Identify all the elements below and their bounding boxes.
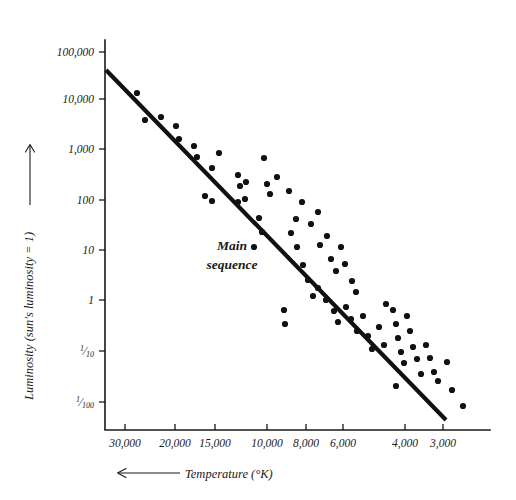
star-point — [299, 199, 305, 205]
star-point — [310, 293, 316, 299]
star-point — [261, 155, 267, 161]
star-point — [202, 193, 208, 199]
star-point — [342, 261, 348, 267]
star-point — [365, 333, 371, 339]
y-tick-label-1000: 1,000 — [68, 143, 94, 156]
y-axis-tick-labels: 100,00010,0001,0001001011⁄101⁄100 — [57, 46, 95, 410]
x-tick-label-6000: 6,000 — [330, 437, 356, 450]
star-point — [251, 244, 257, 250]
star-point — [390, 307, 396, 313]
x-tick-label-30000: 30,000 — [108, 437, 141, 450]
star-point — [407, 328, 413, 334]
star-point — [333, 268, 339, 274]
x-axis-title-group: Temperature (°K) — [118, 467, 273, 481]
star-point — [142, 117, 148, 123]
y-tick-label-10000: 10,000 — [62, 93, 94, 106]
x-tick-label-20000: 20,000 — [159, 437, 191, 450]
star-point — [158, 114, 164, 120]
x-tick-label-3000: 3,000 — [429, 437, 456, 450]
x-axis-tick-labels: 30,00020,00015,00010,0008,0006,0004,0003… — [108, 437, 456, 450]
main-sequence-annotation: Main sequence — [206, 238, 258, 272]
star-point — [176, 136, 182, 142]
main-sequence-line-group — [106, 70, 446, 420]
x-tick-label-15000: 15,000 — [199, 437, 231, 450]
star-point — [393, 383, 399, 389]
star-point — [324, 233, 330, 239]
y-tick-label-100000: 100,000 — [57, 46, 95, 59]
star-point — [264, 181, 270, 187]
star-point — [393, 321, 399, 327]
y-tick-label-1: 1 — [88, 294, 94, 306]
star-point — [404, 313, 410, 319]
star-point — [418, 371, 424, 377]
star-point — [256, 215, 262, 221]
y-axis-title: Luminosity (sun's luminosity = 1) — [22, 232, 36, 401]
star-point — [376, 324, 382, 330]
star-point — [435, 378, 441, 384]
star-point — [294, 244, 300, 250]
star-point — [281, 307, 287, 313]
star-point — [235, 199, 241, 205]
star-point — [444, 359, 450, 365]
star-point — [209, 165, 215, 171]
star-point — [323, 297, 329, 303]
x-axis-title: Temperature (°K) — [185, 467, 273, 481]
star-point — [353, 289, 359, 295]
star-point — [243, 179, 249, 185]
y-tick-label-0.1: 1⁄10 — [80, 344, 94, 359]
star-point — [286, 188, 292, 194]
y-tick-label-10: 10 — [83, 244, 95, 256]
star-point — [293, 216, 299, 222]
star-point — [335, 319, 341, 325]
star-point — [274, 174, 280, 180]
star-point — [315, 285, 321, 291]
y-axis-tick-marks — [99, 52, 105, 402]
star-point — [134, 90, 140, 96]
star-point — [209, 198, 215, 204]
y-tick-label-100: 100 — [77, 194, 95, 206]
star-point — [383, 301, 389, 307]
star-point — [348, 316, 354, 322]
y-axis-title-group: Luminosity (sun's luminosity = 1) — [22, 145, 36, 402]
star-point — [338, 244, 344, 250]
star-point — [343, 304, 349, 310]
main-sequence-line — [106, 70, 446, 420]
star-point — [282, 321, 288, 327]
x-tick-label-8000: 8,000 — [293, 437, 319, 450]
star-point — [305, 277, 311, 283]
star-point — [460, 403, 466, 409]
star-point — [317, 242, 323, 248]
star-point — [331, 308, 337, 314]
y-tick-label-0.01: 1⁄100 — [76, 395, 94, 410]
star-point — [398, 349, 404, 355]
star-point — [349, 278, 355, 284]
main-sequence-label-line1: Main — [216, 238, 247, 253]
star-point — [354, 328, 360, 334]
star-point — [191, 143, 197, 149]
scatter-plot-canvas: 30,00020,00015,00010,0008,0006,0004,0003… — [0, 0, 516, 500]
star-point — [300, 262, 306, 268]
star-point — [267, 191, 273, 197]
star-point — [194, 154, 200, 160]
star-point — [381, 342, 387, 348]
star-point — [259, 229, 265, 235]
star-point — [410, 344, 416, 350]
star-data-points — [134, 90, 466, 409]
star-point — [360, 313, 366, 319]
star-point — [401, 360, 407, 366]
star-point — [369, 346, 375, 352]
star-point — [423, 342, 429, 348]
star-point — [414, 356, 420, 362]
star-point — [242, 196, 248, 202]
x-axis-tick-marks — [125, 424, 443, 430]
star-point — [427, 355, 433, 361]
star-point — [235, 172, 241, 178]
star-point — [216, 150, 222, 156]
star-point — [315, 209, 321, 215]
star-point — [237, 183, 243, 189]
star-point — [173, 123, 179, 129]
x-tick-label-10000: 10,000 — [251, 437, 283, 450]
x-tick-label-4000: 4,000 — [392, 437, 418, 450]
star-point — [328, 256, 334, 262]
hr-diagram-figure: 30,00020,00015,00010,0008,0006,0004,0003… — [0, 0, 516, 500]
